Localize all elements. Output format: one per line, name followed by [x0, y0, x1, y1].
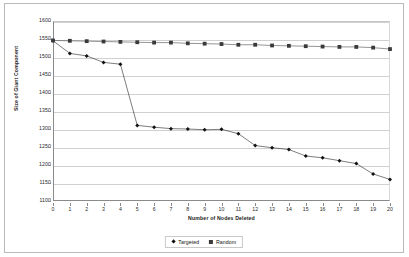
data-point — [287, 148, 291, 152]
x-axis-tick-label: 9 — [203, 206, 206, 212]
x-axis-tick-mark — [171, 203, 172, 206]
legend-label: Targeted — [178, 239, 199, 245]
x-axis-tick-label: 2 — [85, 206, 88, 212]
y-axis-tick-mark — [48, 57, 51, 58]
data-point — [371, 172, 375, 176]
x-axis-tick-label: 7 — [169, 206, 172, 212]
data-point — [337, 159, 341, 163]
data-point — [304, 44, 308, 48]
data-point — [270, 44, 274, 48]
data-point — [253, 43, 257, 47]
y-axis-tick-label: 1250 — [7, 144, 51, 149]
data-point — [135, 40, 139, 44]
x-axis-tick-label: 11 — [236, 206, 241, 212]
x-axis-tick-label: 16 — [320, 206, 326, 212]
y-axis-tick-label: 1600 — [7, 18, 51, 23]
x-axis-tick-mark — [87, 203, 88, 206]
x-axis-tick-mark — [306, 203, 307, 206]
data-point — [321, 45, 325, 49]
data-point — [287, 44, 291, 48]
data-point — [118, 62, 122, 66]
chart-legend: TargetedRandom — [165, 236, 243, 248]
data-point — [51, 39, 55, 43]
legend-label: Random — [216, 239, 236, 245]
data-point — [119, 40, 123, 44]
x-axis-tick-mark — [70, 203, 71, 206]
data-point — [304, 154, 308, 158]
data-point — [253, 144, 257, 148]
series-random — [51, 39, 392, 51]
data-point — [220, 42, 224, 46]
y-axis-tick-mark — [48, 75, 51, 76]
y-axis-tick-mark — [48, 39, 51, 40]
x-axis-tick-mark — [120, 203, 121, 206]
y-axis-tick-label: 1100 — [7, 198, 51, 203]
data-point — [270, 146, 274, 150]
data-point — [388, 177, 392, 181]
x-axis-tick-label: 1 — [68, 206, 71, 212]
diamond-marker-icon — [171, 240, 176, 245]
x-axis-tick-mark — [238, 203, 239, 206]
x-axis-tick-mark — [339, 203, 340, 206]
data-point — [186, 127, 190, 131]
x-axis-tick-mark — [373, 203, 374, 206]
y-axis-tick-label: 1550 — [7, 36, 51, 41]
x-axis-tick-label: 3 — [102, 206, 105, 212]
square-marker-icon — [209, 240, 213, 244]
data-point — [169, 41, 173, 45]
x-axis-title: Number of Nodes Deleted — [53, 215, 390, 221]
x-axis-tick-label: 15 — [303, 206, 309, 212]
x-axis-tick-mark — [289, 203, 290, 206]
data-point — [220, 127, 224, 131]
data-point — [388, 47, 392, 51]
data-point — [102, 60, 106, 64]
data-point — [371, 46, 375, 50]
y-axis-tick-mark — [48, 129, 51, 130]
y-axis-tick-mark — [48, 111, 51, 112]
data-point — [68, 51, 72, 55]
data-series-layer — [53, 21, 390, 201]
x-axis-tick-mark — [272, 203, 273, 206]
x-axis-tick-mark — [53, 203, 54, 206]
data-point — [203, 128, 207, 132]
x-axis-tick-labels: 01234567891011121314151617181920 — [53, 203, 390, 213]
data-point — [354, 162, 358, 166]
data-point — [135, 123, 139, 127]
chart-figure: 1100115012001250130013501400145015001550… — [0, 0, 409, 257]
x-axis-tick-label: 18 — [353, 206, 359, 212]
data-point — [354, 45, 358, 49]
y-axis-tick-mark — [48, 21, 51, 22]
y-axis-tick-labels: 1100115012001250130013501400145015001550… — [5, 21, 51, 201]
x-axis-tick-mark — [188, 203, 189, 206]
x-axis-tick-mark — [323, 203, 324, 206]
x-axis-tick-mark — [255, 203, 256, 206]
x-axis-tick-mark — [222, 203, 223, 206]
x-axis-tick-label: 13 — [269, 206, 275, 212]
series-targeted — [51, 39, 392, 182]
data-point — [338, 45, 342, 49]
y-axis-tick-mark — [48, 201, 51, 202]
data-point — [85, 39, 89, 43]
chart-frame: 1100115012001250130013501400145015001550… — [4, 3, 404, 253]
y-axis-tick-mark — [48, 147, 51, 148]
x-axis-tick-label: 12 — [252, 206, 258, 212]
data-point — [169, 127, 173, 131]
x-axis-tick-label: 20 — [387, 206, 393, 212]
y-axis-tick-label: 1200 — [7, 162, 51, 167]
x-axis-tick-mark — [390, 203, 391, 206]
data-point — [236, 43, 240, 47]
data-point — [186, 41, 190, 45]
x-axis-tick-label: 14 — [286, 206, 292, 212]
x-axis-tick-mark — [137, 203, 138, 206]
x-axis-tick-label: 10 — [219, 206, 225, 212]
y-axis-tick-label: 1300 — [7, 126, 51, 131]
x-axis-tick-label: 4 — [119, 206, 122, 212]
x-axis-tick-mark — [356, 203, 357, 206]
data-point — [102, 40, 106, 44]
data-point — [321, 156, 325, 160]
y-axis-tick-label: 1150 — [7, 180, 51, 185]
x-axis-tick-mark — [154, 203, 155, 206]
y-axis-tick-mark — [48, 183, 51, 184]
x-axis-tick-label: 17 — [337, 206, 343, 212]
data-point — [152, 41, 156, 45]
